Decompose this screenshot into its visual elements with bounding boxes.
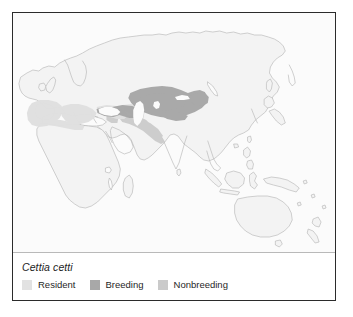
map-panel <box>13 13 335 253</box>
legend-entry-nonbreeding: Nonbreeding <box>158 280 228 290</box>
nonbreeding-swatch <box>158 280 168 290</box>
map-svg <box>13 13 335 252</box>
legend-entry-resident: Resident <box>22 280 76 290</box>
resident-swatch <box>22 280 32 290</box>
hainan-island <box>234 144 239 148</box>
legend-row: Resident Breeding Nonbreeding <box>22 280 335 290</box>
range-map-figure: Cettia cetti Resident Breeding Nonbreedi… <box>12 12 336 301</box>
legend-panel: Cettia cetti Resident Breeding Nonbreedi… <box>13 253 335 300</box>
species-name: Cettia cetti <box>22 261 335 273</box>
nonbreeding-label: Nonbreeding <box>174 280 228 290</box>
resident-label: Resident <box>38 280 76 290</box>
legend-entry-breeding: Breeding <box>90 280 144 290</box>
breeding-swatch <box>90 280 100 290</box>
ireland-island <box>39 83 46 91</box>
breeding-label: Breeding <box>106 280 144 290</box>
